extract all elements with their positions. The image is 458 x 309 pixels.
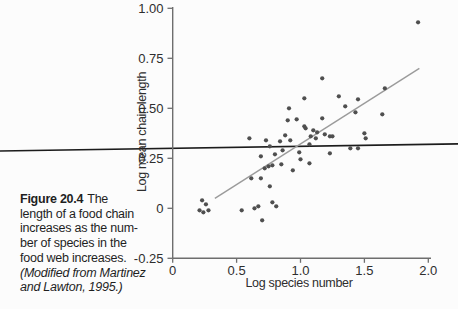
data-point xyxy=(263,166,267,170)
data-point xyxy=(240,208,244,212)
x-tick-label: 1.5 xyxy=(355,263,373,278)
data-point xyxy=(268,184,272,188)
caption-line-1: Figure 20.4The xyxy=(20,192,170,207)
data-point xyxy=(320,76,324,80)
horizontal-rule xyxy=(0,144,458,151)
figure-20-4: 1.000.750.500.250-0.2500.51.01.52.0 Log … xyxy=(0,0,458,309)
data-point xyxy=(383,86,387,90)
x-tick-label: 0.5 xyxy=(228,263,246,278)
data-point xyxy=(311,128,315,132)
data-point xyxy=(328,151,332,155)
data-point xyxy=(343,104,347,108)
data-point xyxy=(348,146,352,150)
data-point xyxy=(259,176,263,180)
figure-caption: Figure 20.4The length of a food chain in… xyxy=(20,192,170,295)
data-point xyxy=(204,202,208,206)
x-tick-label: 2.0 xyxy=(419,263,437,278)
y-axis-label: Log mean chain length xyxy=(135,72,149,192)
data-point xyxy=(259,154,263,158)
data-point xyxy=(362,131,366,135)
data-point xyxy=(281,148,285,152)
caption-line-3: increases as the num- xyxy=(20,221,170,236)
caption-line-4: ber of species in the xyxy=(20,236,170,251)
data-point xyxy=(286,118,290,122)
caption-source-line-1: (Modified from Martinez xyxy=(20,266,170,281)
x-axis-label: Log species number xyxy=(245,276,352,290)
x-tick-label: 0 xyxy=(169,263,176,278)
data-point xyxy=(252,206,256,210)
data-point xyxy=(256,204,260,208)
data-point xyxy=(283,133,287,137)
data-point xyxy=(206,208,210,212)
figure-number: Figure 20.4 xyxy=(20,192,83,206)
data-point xyxy=(270,200,274,204)
data-point xyxy=(323,132,327,136)
data-point xyxy=(260,218,264,222)
data-point xyxy=(320,116,324,120)
data-point xyxy=(356,97,360,101)
data-point xyxy=(201,210,205,214)
y-tick-label: 1.00 xyxy=(138,1,163,16)
data-point xyxy=(197,208,201,212)
data-point xyxy=(330,134,334,138)
data-point xyxy=(264,138,268,142)
data-point xyxy=(315,130,319,134)
data-point xyxy=(309,134,313,138)
data-point xyxy=(274,204,278,208)
caption-text: The xyxy=(87,192,108,206)
data-point xyxy=(416,20,420,24)
data-point xyxy=(270,163,274,167)
data-point xyxy=(287,106,291,110)
data-point xyxy=(302,124,306,128)
data-point xyxy=(356,146,360,150)
data-point xyxy=(291,168,295,172)
caption-source-line-2: and Lawton, 1995.) xyxy=(20,280,170,295)
data-point xyxy=(337,94,341,98)
data-point xyxy=(302,96,306,100)
data-point xyxy=(307,142,311,146)
data-point xyxy=(298,157,302,161)
data-point xyxy=(268,144,272,148)
caption-line-2: length of a food chain xyxy=(20,207,170,222)
y-tick-label: 0.75 xyxy=(138,51,163,66)
data-point xyxy=(380,112,384,116)
data-point xyxy=(314,136,318,140)
data-point xyxy=(278,139,282,143)
data-point xyxy=(364,136,368,140)
data-point xyxy=(266,164,270,168)
data-point xyxy=(273,152,277,156)
data-point xyxy=(353,110,357,114)
data-point xyxy=(297,150,301,154)
data-point xyxy=(249,176,253,180)
data-point xyxy=(247,136,251,140)
data-point xyxy=(279,162,283,166)
data-point xyxy=(200,198,204,202)
data-point xyxy=(307,161,311,165)
data-point xyxy=(288,138,292,142)
data-point xyxy=(295,117,299,121)
caption-line-5: food web increases. xyxy=(20,251,170,266)
